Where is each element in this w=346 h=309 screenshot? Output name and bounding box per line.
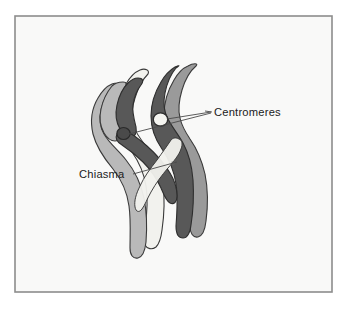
lower-centromere: [117, 128, 130, 140]
figure-root: Centromeres Chiasma: [0, 0, 346, 309]
label-chiasma: Chiasma: [79, 168, 125, 180]
upper-centromere: [153, 113, 167, 126]
label-centromeres: Centromeres: [214, 106, 281, 118]
chromosome-diagram-svg: Centromeres Chiasma: [0, 0, 346, 309]
